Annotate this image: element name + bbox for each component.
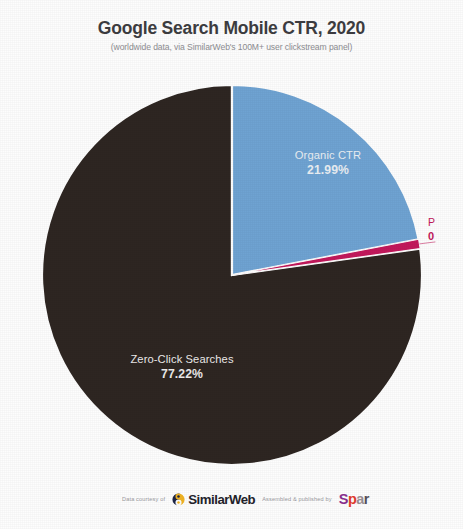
published-by-label: Assembled & published by [262,496,332,502]
paid-ctr-leader-line [419,242,435,244]
sparktoro-logo[interactable]: Spar [339,491,369,507]
sparktoro-logo-char-3: a [356,491,364,507]
pie-label-organic-ctr-value: 21.99% [268,163,388,178]
paper-grain-overlay [0,0,463,529]
pie-label-paid-ctr: P 0 [428,216,463,244]
sparktoro-logo-char-1: S [339,491,348,507]
chart-title: Google Search Mobile CTR, 2020 [0,18,463,38]
pie-label-organic-ctr-name: Organic CTR [268,148,388,162]
pie-slice-zero-click-searches[interactable] [42,85,422,465]
chart-subtitle: (worldwide data, via SimilarWeb's 100M+ … [0,42,463,52]
pie-slice-paid-ctr[interactable] [232,239,420,275]
pie-slice-organic-ctr[interactable] [232,85,419,275]
sparktoro-logo-char-4: r [364,491,369,507]
similarweb-mark-icon [172,493,185,506]
pie-label-paid-ctr-value: 0 [428,230,463,244]
sparktoro-logo-char-2: p [348,491,356,507]
similarweb-wordmark: SimilarWeb [188,492,255,507]
infographic-canvas: Google Search Mobile CTR, 2020 (worldwid… [0,0,463,529]
pie-chart-svg [0,0,463,529]
chart-footer: Data courtesy of SimilarWeb Assembled & … [0,491,463,507]
similarweb-logo[interactable]: SimilarWeb [172,492,255,507]
pie-label-paid-ctr-name: P [428,216,463,229]
pie-chart: Organic CTR 21.99% Zero-Click Searches 7… [0,0,463,529]
pie-label-organic-ctr: Organic CTR 21.99% [268,148,388,178]
pie-slices [42,85,422,465]
data-courtesy-label: Data courtesy of [122,496,165,502]
chart-header: Google Search Mobile CTR, 2020 (worldwid… [0,18,463,52]
pie-label-zero-click-searches-name: Zero-Click Searches [92,352,272,366]
pie-label-zero-click-searches: Zero-Click Searches 77.22% [92,352,272,382]
pie-label-zero-click-searches-value: 77.22% [92,367,272,382]
